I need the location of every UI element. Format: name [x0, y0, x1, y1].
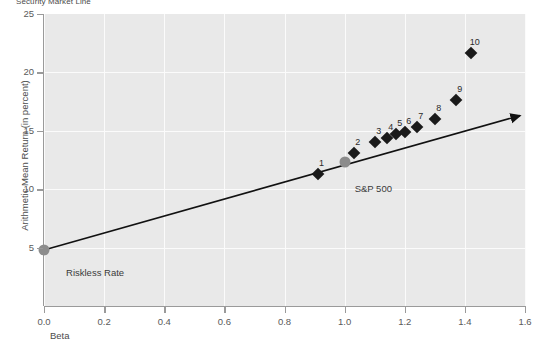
x-axis-tick-label: 0.2 [98, 316, 111, 327]
gridline-vertical [405, 14, 406, 306]
x-axis-tick [405, 307, 406, 313]
y-axis-tick [37, 248, 43, 249]
data-point-label: 3 [376, 126, 381, 136]
x-axis-tick [104, 307, 105, 313]
data-point-marker [339, 157, 350, 168]
data-point-label: 10 [470, 37, 480, 47]
x-axis-tick [525, 307, 526, 313]
y-axis-tick-label: 25 [0, 8, 34, 19]
gridline-vertical [224, 14, 225, 306]
gridline-vertical [285, 14, 286, 306]
y-axis-tick [37, 131, 43, 132]
y-axis-line [43, 14, 44, 306]
gridline-vertical [164, 14, 165, 306]
data-point-label: 9 [457, 84, 462, 94]
chart-annotation: Riskless Rate [66, 267, 124, 278]
chart-title: Security Market Line [16, 0, 91, 6]
chart-annotation: S&P 500 [355, 183, 392, 194]
data-point-marker [39, 244, 50, 255]
x-axis-tick [224, 307, 225, 313]
gridline-vertical [104, 14, 105, 306]
x-axis-tick-label: 1.6 [518, 316, 531, 327]
x-axis-tick-label: 0.0 [37, 316, 50, 327]
y-axis-title: Arithmetic Mean Return (in percent) [19, 46, 30, 266]
y-axis-tick-label: 5 [0, 242, 34, 253]
gridline-horizontal [44, 131, 525, 132]
x-axis-tick-label: 0.4 [158, 316, 171, 327]
y-axis-tick-label: 10 [0, 183, 34, 194]
y-axis-tick-label: 15 [0, 125, 34, 136]
y-axis-tick-label: 20 [0, 66, 34, 77]
x-axis-title: Beta [50, 330, 70, 341]
gridline-horizontal [44, 248, 525, 249]
security-market-line-chart: Security Market Line Arithmetic Mean Ret… [0, 0, 539, 343]
data-point-label: 2 [355, 137, 360, 147]
data-point-label: 5 [397, 118, 402, 128]
data-point-label: 1 [319, 158, 324, 168]
y-axis-tick [37, 189, 43, 190]
x-axis-tick-label: 0.8 [278, 316, 291, 327]
x-axis-tick [44, 307, 45, 313]
data-point-label: 6 [406, 116, 411, 126]
plot-area [44, 14, 525, 306]
gridline-horizontal [44, 72, 525, 73]
y-axis-tick [37, 14, 43, 15]
x-axis-tick-label: 0.6 [218, 316, 231, 327]
x-axis-tick [345, 307, 346, 313]
gridline-vertical [465, 14, 466, 306]
x-axis-tick-label: 1.2 [398, 316, 411, 327]
x-axis-tick-label: 1.4 [458, 316, 471, 327]
gridline-vertical [525, 14, 526, 306]
x-axis-tick [465, 307, 466, 313]
x-axis-tick [285, 307, 286, 313]
gridline-horizontal [44, 189, 525, 190]
x-axis-tick-label: 1.0 [338, 316, 351, 327]
data-point-label: 8 [436, 103, 441, 113]
data-point-label: 7 [418, 111, 423, 121]
y-axis-tick [37, 72, 43, 73]
x-axis-tick [164, 307, 165, 313]
